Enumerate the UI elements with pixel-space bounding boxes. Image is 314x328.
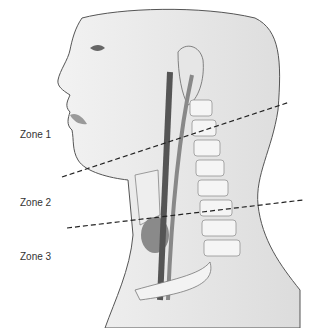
zone-2-label: Zone 2 (20, 197, 51, 208)
zone-3-label: Zone 3 (20, 251, 51, 262)
neck-illustration (0, 0, 314, 328)
zone-1-label: Zone 1 (20, 129, 51, 140)
